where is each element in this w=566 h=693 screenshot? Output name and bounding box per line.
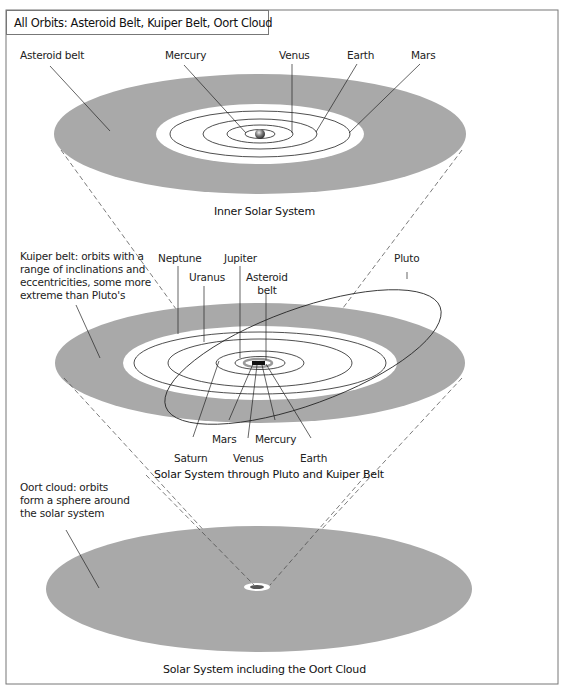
label-oort-note: Oort cloud: orbits form a sphere around … <box>20 481 130 520</box>
label-pluto: Pluto <box>394 252 419 265</box>
solar-system-diagram: All Orbits: Asteroid Belt, Kuiper Belt, … <box>0 0 566 693</box>
label-asteroid-belt: Asteroid belt <box>20 49 84 62</box>
title-box: All Orbits: Asteroid Belt, Kuiper Belt, … <box>6 10 269 35</box>
label-uranus: Uranus <box>189 271 225 284</box>
label-venus: Venus <box>279 49 310 62</box>
inner-system-mini <box>250 585 264 589</box>
label-saturn: Saturn <box>174 452 207 465</box>
label-mercury-2: Mercury <box>255 433 296 446</box>
diagram-title: All Orbits: Asteroid Belt, Kuiper Belt, … <box>14 16 272 30</box>
inner-planets-cluster <box>252 361 265 365</box>
label-venus-2: Venus <box>233 452 264 465</box>
label-asteroid-belt-2: Asteroid belt <box>246 271 288 297</box>
label-kuiper-note: Kuiper belt: orbits with a range of incl… <box>20 250 151 302</box>
caption-inner-solar-system: Inner Solar System <box>214 205 315 218</box>
caption-kuiper: Solar System through Pluto and Kuiper Be… <box>154 468 384 481</box>
label-mars: Mars <box>411 49 435 62</box>
diagram-canvas <box>0 0 566 693</box>
label-neptune: Neptune <box>158 252 201 265</box>
caption-oort-cloud: Solar System including the Oort Cloud <box>163 663 366 676</box>
label-jupiter: Jupiter <box>224 252 257 265</box>
label-mars-2: Mars <box>212 433 236 446</box>
label-earth: Earth <box>347 49 374 62</box>
label-mercury: Mercury <box>165 49 206 62</box>
label-earth-2: Earth <box>300 452 327 465</box>
sun-icon <box>255 129 265 139</box>
